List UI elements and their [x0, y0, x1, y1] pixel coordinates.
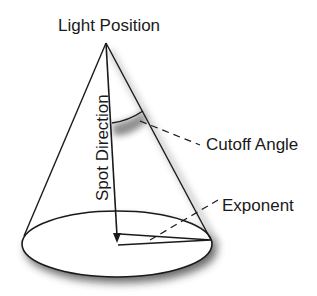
cutoff-arc-shadow [112, 112, 146, 136]
spotlight-cone-diagram: Light Position Spot Direction Cutoff Ang… [0, 0, 317, 296]
spot-direction-label: Spot Direction [93, 94, 112, 201]
exponent-label: Exponent [222, 196, 294, 215]
cutoff-angle-label: Cutoff Angle [206, 135, 298, 154]
light-position-label: Light Position [58, 16, 160, 35]
